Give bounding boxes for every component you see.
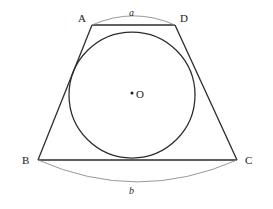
geometry-figure-canvas: A D B C O a b — [0, 0, 273, 209]
inscribed-circle — [69, 32, 195, 158]
vertex-label-D: D — [180, 13, 188, 24]
arc-b-curve — [38, 160, 237, 182]
geometry-diagram-svg — [0, 0, 273, 209]
side-AB-line — [38, 25, 92, 160]
side-CD-line — [175, 25, 237, 160]
vertex-label-A: A — [78, 13, 86, 24]
arc-label-b: b — [129, 186, 134, 196]
center-label-O: O — [136, 89, 144, 100]
vertex-label-B: B — [22, 155, 29, 166]
center-point-dot — [131, 92, 134, 95]
vertex-label-C: C — [245, 155, 252, 166]
arc-label-a: a — [129, 8, 134, 18]
